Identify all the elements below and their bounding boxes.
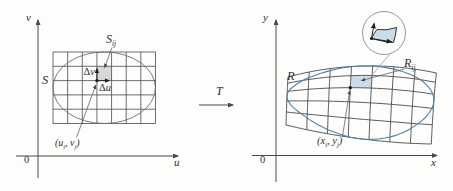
cell-rij — [350, 75, 372, 88]
y-axis-label: y — [263, 12, 268, 23]
xy-point-dot — [349, 86, 352, 89]
cell-rij-label: Rij — [404, 57, 415, 69]
rij-leader-arrow — [362, 69, 405, 81]
v-axis-label: v — [26, 12, 31, 23]
region-r-label: R — [287, 70, 295, 83]
diagram-canvas — [0, 0, 453, 191]
delta-u-label: Δu — [99, 83, 111, 94]
cell-sij-label: Sij — [106, 33, 116, 45]
uv-point-leader-arrow — [77, 85, 96, 137]
delta-v-label: Δv — [70, 67, 95, 78]
left-origin-label: 0 — [24, 155, 29, 166]
sij-leader-arrow — [105, 48, 112, 68]
x-axis-label: x — [431, 157, 436, 168]
cell-sij — [97, 66, 112, 80]
right-origin-label: 0 — [260, 155, 265, 166]
change-of-variables-diagram: v u 0 S Sij Δv Δu (ui, vj) T y x 0 R Rij… — [0, 0, 453, 191]
zoomed-patch-corner-dot — [370, 37, 373, 40]
point-uv-label: (ui, vj) — [55, 138, 80, 148]
point-xy-label: (xi, yj) — [317, 136, 342, 147]
u-axis-label: u — [174, 157, 180, 168]
magnifier-leader-line — [371, 55, 389, 76]
transform-t-label: T — [216, 85, 223, 97]
region-s-label: S — [42, 74, 48, 87]
